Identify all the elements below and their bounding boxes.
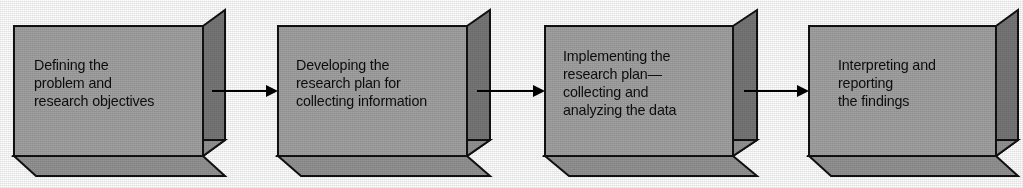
step-3-box-side-face [733, 10, 757, 156]
process-flow-diagram: Defining the problem and research object… [0, 0, 1023, 188]
process-step-4[interactable]: Interpreting and reporting the findings [809, 10, 1018, 176]
step-4-box-side-face [996, 10, 1018, 156]
step-2-box-base-slab [278, 156, 490, 176]
step-1-box-side-face [203, 10, 225, 156]
step-1-box-front-face [14, 26, 203, 156]
step-1-box-base-slab [14, 156, 225, 176]
process-step-3[interactable]: Implementing the research plan— collecti… [545, 10, 757, 176]
step-3-box-base-slab [545, 156, 757, 176]
process-step-1[interactable]: Defining the problem and research object… [14, 10, 225, 176]
process-step-2[interactable]: Developing the research plan for collect… [278, 10, 490, 176]
step-4-box-front-face [809, 26, 996, 156]
step-4-box-base-slab [809, 156, 1018, 176]
step-2-box-front-face [278, 26, 467, 156]
process-flow-canvas: Defining the problem and research object… [0, 0, 1023, 188]
step-2-box-side-face [467, 10, 490, 156]
